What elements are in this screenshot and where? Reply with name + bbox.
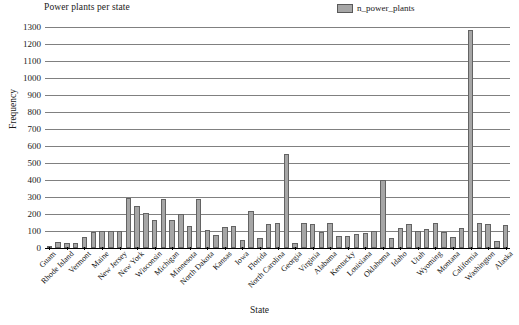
y-axis-tick-label: 1200	[8, 40, 41, 49]
bar	[415, 231, 420, 248]
x-axis-tick-label: Idaho	[390, 250, 409, 269]
bar	[363, 233, 368, 248]
bar	[301, 223, 306, 249]
bar	[126, 198, 131, 248]
bar	[371, 231, 376, 248]
bar	[161, 199, 166, 248]
bar	[477, 223, 482, 249]
y-axis-tick-label: 500	[8, 159, 41, 168]
y-axis-tick-label: 800	[8, 108, 41, 117]
bar-series	[45, 27, 510, 248]
bar	[389, 238, 394, 248]
bar	[485, 224, 490, 248]
bar	[134, 206, 139, 249]
y-axis-tick-label: 1100	[8, 57, 41, 66]
bar	[433, 223, 438, 249]
bar	[284, 154, 289, 248]
y-axis-tick-label: 400	[8, 176, 41, 185]
bar	[354, 234, 359, 248]
plot-area: 0100200300400500600700800900100011001200…	[45, 27, 510, 248]
legend-swatch-icon	[337, 4, 353, 13]
bar	[468, 30, 473, 248]
bar	[459, 228, 464, 248]
bar	[310, 224, 315, 248]
bar	[169, 220, 174, 248]
bar	[152, 220, 157, 248]
bar	[187, 226, 192, 248]
bar	[441, 232, 446, 248]
bar	[275, 223, 280, 249]
bar	[336, 236, 341, 248]
bar	[196, 199, 201, 248]
bar	[248, 211, 253, 248]
y-axis-tick-label: 1300	[8, 23, 41, 32]
y-axis-tick-label: 700	[8, 125, 41, 134]
bar	[398, 228, 403, 248]
y-axis-tick-label: 1000	[8, 74, 41, 83]
bar	[319, 232, 324, 248]
bar	[55, 242, 60, 248]
bar	[494, 241, 499, 248]
bar	[503, 225, 508, 248]
chart-title: Power plants per state	[44, 2, 130, 12]
legend-label: n_power_plants	[357, 3, 415, 13]
bar	[117, 231, 122, 248]
chart-legend: n_power_plants	[337, 3, 415, 13]
bar	[231, 226, 236, 248]
bar	[222, 227, 227, 248]
y-axis-tick-label: 100	[8, 227, 41, 236]
x-axis-tick-label: Kansas	[212, 250, 234, 272]
y-axis-tick-label: 600	[8, 142, 41, 151]
bar	[143, 213, 148, 248]
bar	[406, 224, 411, 248]
x-axis-tick-labels: GuamRhode IslandVermontMaineNew JerseyNe…	[45, 250, 510, 310]
x-axis-tick-label: Alaska	[493, 250, 514, 271]
bar	[91, 232, 96, 248]
bar	[108, 231, 113, 248]
bar	[327, 223, 332, 249]
bar	[380, 180, 385, 248]
bar	[213, 235, 218, 248]
y-axis-tick-label: 300	[8, 193, 41, 202]
y-axis-tick-label: 200	[8, 210, 41, 219]
bar	[424, 229, 429, 248]
chart-figure: Power plants per state n_power_plants Fr…	[0, 0, 519, 325]
y-axis-tick-label: 0	[8, 244, 41, 253]
y-axis-tick-label: 900	[8, 91, 41, 100]
bar	[266, 224, 271, 248]
bar	[99, 231, 104, 248]
bar	[178, 214, 183, 248]
bar	[73, 243, 78, 248]
bar	[205, 230, 210, 248]
